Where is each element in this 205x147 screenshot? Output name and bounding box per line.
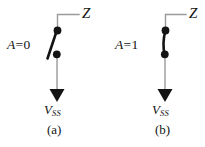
supply-label-b: VSS: [152, 103, 169, 118]
switch-contact-top-b: [162, 27, 170, 35]
input-value-a: 0: [23, 37, 30, 52]
input-symbol-a: A: [7, 37, 16, 52]
supply-symbol-a: V: [44, 102, 52, 117]
supply-subscript-b: SS: [160, 108, 169, 118]
supply-arrowhead-b: [158, 89, 173, 102]
panel-caption-a: (a): [47, 123, 61, 136]
input-label-b: A=1: [115, 38, 139, 52]
switch-contact-bottom-b: [161, 50, 169, 58]
panel-a-circuit: [48, 15, 80, 103]
input-value-b: 1: [131, 37, 138, 52]
figure-root: Z A=0 VSS (a) Z A=1 VSS (b): [0, 0, 205, 147]
output-label-a: Z: [82, 6, 91, 21]
switch-contact-top-a: [54, 27, 62, 35]
input-symbol-b: A: [115, 37, 124, 52]
supply-subscript-a: SS: [52, 108, 61, 118]
supply-label-a: VSS: [44, 103, 61, 118]
supply-arrowhead-a: [50, 89, 65, 102]
input-label-a: A=0: [7, 38, 31, 52]
circuit-diagram-svg: [0, 0, 205, 147]
panel-caption-b: (b): [155, 123, 170, 136]
supply-symbol-b: V: [152, 102, 160, 117]
switch-contact-bottom-a: [53, 50, 61, 58]
panel-b-circuit: [158, 15, 187, 103]
output-label-b: Z: [189, 6, 198, 21]
